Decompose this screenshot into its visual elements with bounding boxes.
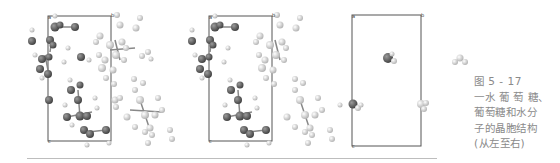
figure-caption: 图 5 - 17 一水 葡 萄 糖、 葡萄糖和水分 子的晶胞结构 (从左至右) [474, 74, 560, 152]
corner-label-a: a [352, 13, 355, 19]
corner-label-a: a [209, 14, 212, 20]
corner-label-c: c [209, 138, 212, 144]
corner-label-c: c [48, 138, 51, 144]
corner-label-b: b [421, 12, 424, 18]
corner-label-b: b [272, 12, 275, 18]
corner-label-c: c [352, 143, 355, 149]
panel-water: a b c [338, 12, 469, 149]
corner-label-a: a [48, 14, 51, 20]
crystal-structure-figure: a b c [0, 0, 560, 163]
caption-line: (从左至右) [474, 136, 560, 152]
caption-line: 葡萄糖和水分 [474, 105, 560, 121]
caption-line: 一水 葡 萄 糖、 [474, 90, 560, 106]
figure-number: 图 5 - 17 [474, 74, 560, 90]
panel-glucose: a b c [188, 12, 335, 148]
caption-line: 子的晶胞结构 [474, 121, 560, 137]
divider-line [27, 158, 437, 159]
corner-label-b: b [111, 12, 114, 18]
panel-glucose-monohydrate: a b c [28, 12, 175, 148]
